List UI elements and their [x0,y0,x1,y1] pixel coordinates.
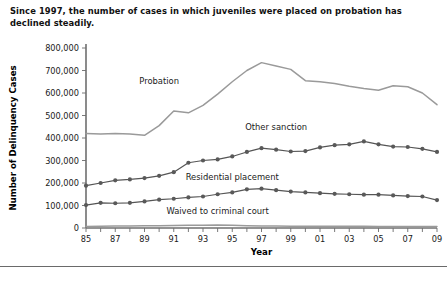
data-point [376,142,380,146]
x-tick-label: 07 [403,234,413,244]
x-tick-label: 93 [198,234,208,244]
data-point [259,187,263,191]
data-point [84,203,88,207]
series-residential-placement [84,187,439,208]
data-point [157,174,161,178]
data-point [128,177,132,181]
y-tick-label: 500,000 [45,111,79,121]
y-tick-label: 200,000 [45,178,79,188]
chart-figure: 0100,000200,000300,000400,000500,000600,… [0,36,447,256]
data-point [435,198,439,202]
data-point [201,194,205,198]
x-tick-label: 91 [169,234,179,244]
x-tick-label: 87 [110,234,120,244]
figure-caption: Since 1997, the number of cases in which… [10,5,430,29]
series-label-probation: Probation [139,76,179,86]
data-point [362,139,366,143]
data-point [245,150,249,154]
data-point [113,201,117,205]
y-tick-label: 700,000 [45,66,79,76]
data-point [333,143,337,147]
data-point [216,192,220,196]
data-point [406,194,410,198]
data-point [435,150,439,154]
y-tick-label: 600,000 [45,88,79,98]
data-point [274,188,278,192]
y-tick-label: 100,000 [45,201,79,211]
series-label-residential-placement: Residential placement [186,172,280,182]
x-tick-label: 03 [344,234,354,244]
data-point [186,161,190,165]
data-point [303,190,307,194]
data-point [318,191,322,195]
footer-divider [0,266,447,267]
y-tick-label: 400,000 [45,133,79,143]
data-point [113,178,117,182]
data-point [186,195,190,199]
series-label-waived-to-criminal-court: Waived to criminal court [166,206,269,216]
data-point [406,145,410,149]
x-tick-label: 01 [315,234,325,244]
series-path [86,189,437,205]
data-point [303,149,307,153]
data-point [142,176,146,180]
data-point [274,148,278,152]
data-point [362,193,366,197]
data-point [99,201,103,205]
y-axis-ticks: 0100,000200,000300,000400,000500,000600,… [45,43,86,233]
data-point [230,154,234,158]
y-tick-label: 0 [74,223,79,233]
x-tick-label: 85 [81,234,91,244]
data-point [420,194,424,198]
x-tick-label: 89 [139,234,149,244]
x-axis-ticks: 85878991939597990103050709 [81,228,442,244]
y-axis-title: Number of Delinquency Cases [8,65,18,210]
data-point [142,199,146,203]
y-tick-label: 800,000 [45,43,79,53]
data-point [128,201,132,205]
data-point [420,147,424,151]
x-tick-label: 99 [286,234,296,244]
data-point [289,189,293,193]
data-point [245,187,249,191]
series-annotation-labels: ProbationOther sanctionResidential place… [139,76,307,216]
data-point [157,198,161,202]
data-point [376,193,380,197]
data-point [347,142,351,146]
x-tick-label: 95 [227,234,237,244]
chart-series-group [84,63,439,227]
data-point [318,145,322,149]
series-label-other-sanction: Other sanction [245,122,307,132]
data-point [391,193,395,197]
data-point [333,192,337,196]
data-point [99,181,103,185]
line-chart: 0100,000200,000300,000400,000500,000600,… [0,36,447,256]
series-waived-to-criminal-court [86,225,437,226]
y-tick-label: 300,000 [45,156,79,166]
x-tick-label: 97 [256,234,266,244]
data-point [230,190,234,194]
series-path [86,225,437,226]
x-tick-label: 05 [373,234,383,244]
data-point [391,144,395,148]
data-point [172,170,176,174]
data-point [172,197,176,201]
data-point [289,149,293,153]
data-point [201,158,205,162]
x-axis-title: Year [250,247,273,256]
data-point [347,192,351,196]
x-tick-label: 09 [432,234,442,244]
data-point [216,157,220,161]
data-point [84,184,88,188]
data-point [259,146,263,150]
